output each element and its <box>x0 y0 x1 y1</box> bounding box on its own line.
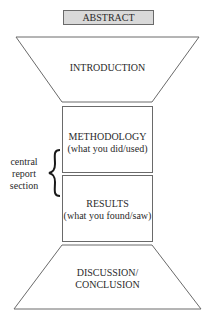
discussion-label-line1: DISCUSSION/ <box>14 267 201 279</box>
introduction-label: INTRODUCTION <box>16 62 199 74</box>
bracket-label-line2: report <box>6 168 42 180</box>
results-sublabel: (what you found/saw) <box>62 210 153 222</box>
discussion-label-line2: CONCLUSION <box>14 279 201 291</box>
methodology-label: METHODOLOGY <box>62 131 153 143</box>
bracket-label-line1: central <box>6 156 42 168</box>
methodology-sublabel: (what you did/used) <box>62 143 153 155</box>
curly-brace-icon <box>49 150 60 196</box>
results-label: RESULTS <box>62 198 153 210</box>
bracket-label-line3: section <box>6 180 42 192</box>
